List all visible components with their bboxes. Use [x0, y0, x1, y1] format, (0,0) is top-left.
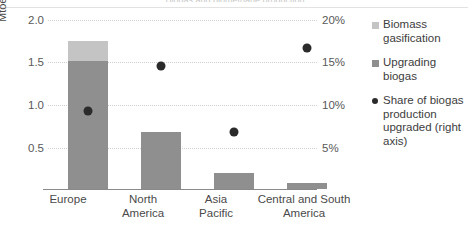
- y-axis-title: Mtoe: [0, 0, 8, 22]
- legend-item-share-of-biogas-production-upgraded[interactable]: Share of biogas production upgraded (rig…: [372, 94, 468, 148]
- gridline: [48, 20, 317, 21]
- legend-dot-icon: [372, 98, 378, 104]
- bar-asia-pacific: [214, 173, 254, 189]
- y-axis-tick-label: 0.5: [14, 142, 44, 154]
- bar-segment-upgrading-biogas: [141, 132, 181, 189]
- share-dot-north-america: [157, 62, 166, 71]
- x-axis-label-central-and-south-america: Central and SouthAmerica: [250, 193, 358, 220]
- chart-title-clipped: Biogas and biomethane production: [150, 0, 320, 2]
- x-axis-label-north-america: NorthAmerica: [119, 193, 167, 220]
- bar-segment-upgrading-biogas: [68, 61, 108, 189]
- legend-item-upgrading-biogas[interactable]: Upgrading biogas: [372, 56, 468, 83]
- legend-swatch-icon: [372, 60, 379, 67]
- bar-segment-biomass-gasification: [68, 41, 108, 60]
- y2-axis-tick-label: 10%: [322, 99, 356, 111]
- plot-area: [48, 20, 317, 189]
- legend-label: Upgrading biogas: [383, 56, 468, 83]
- x-axis-label-europe: Europe: [42, 193, 94, 207]
- legend: Biomass gasification Upgrading biogas Sh…: [372, 18, 468, 159]
- y-axis-tick-label: 1.5: [14, 56, 44, 68]
- chart-container: Biogas and biomethane production Mtoe 2.…: [0, 0, 468, 229]
- share-dot-europe: [84, 107, 93, 116]
- y2-axis-tick-label: 15%: [322, 56, 356, 68]
- bar-segment-upgrading-biogas: [214, 173, 254, 189]
- share-dot-central-and-south-america: [303, 43, 312, 52]
- x-axis-baseline: [43, 189, 317, 190]
- x-axis-label-asia-pacific: AsiaPacific: [192, 193, 240, 220]
- legend-label: Biomass gasification: [383, 18, 468, 45]
- y2-axis-tick-label: 20%: [322, 14, 356, 26]
- y-axis-tick-label: 1.0: [14, 99, 44, 111]
- bar-north-america: [141, 132, 181, 189]
- legend-label: Share of biogas production upgraded (rig…: [383, 94, 468, 148]
- legend-item-biomass-gasification[interactable]: Biomass gasification: [372, 18, 468, 45]
- top-divider: [0, 7, 468, 8]
- share-dot-asia-pacific: [230, 128, 239, 137]
- y2-axis-tick-label: 5%: [322, 142, 356, 154]
- legend-swatch-icon: [372, 22, 379, 29]
- y-axis-tick-label: 2.0: [14, 14, 44, 26]
